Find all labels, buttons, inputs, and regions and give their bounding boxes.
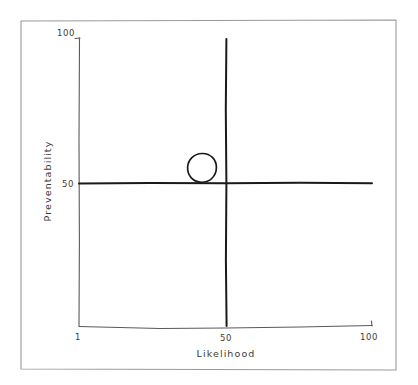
y-tick-label-100: 100 [57, 28, 75, 38]
x-tick-label-100: 100 [360, 332, 378, 342]
sketch-canvas: 100 50 1 50 100 Preventability Likelihoo… [0, 0, 418, 385]
x-tick-label-50: 50 [220, 333, 232, 343]
y-axis-line [79, 38, 80, 326]
data-point-circle-marker [188, 153, 217, 182]
y-axis-tick-100 [75, 38, 80, 39]
y-tick-label-50: 50 [62, 179, 74, 189]
x-axis-title: Likelihood [197, 348, 256, 359]
x-axis-line [79, 326, 372, 329]
x-axis-tick-100 [372, 321, 373, 326]
quadrant-divider-vertical [226, 39, 227, 326]
y-axis-title: Preventability [42, 141, 53, 222]
risk-matrix-chart: 100 50 1 50 100 Preventability Likelihoo… [0, 0, 418, 385]
x-tick-label-1: 1 [75, 332, 81, 342]
border-frame [21, 20, 396, 370]
